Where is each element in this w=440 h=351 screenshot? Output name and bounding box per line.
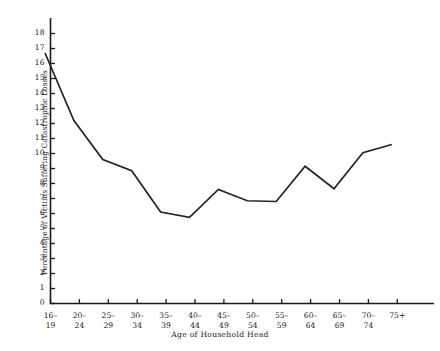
y-tick-label: 2 [23, 268, 45, 277]
y-tick-label: 4 [23, 238, 45, 247]
y-tick-label: 0 [23, 298, 45, 307]
x-axis-title: Age of Household Head [0, 330, 440, 339]
y-tick-label: 13 [23, 103, 45, 112]
y-tick-label: 8 [23, 178, 45, 187]
y-tick-label: 7 [23, 193, 45, 202]
plot-area [0, 0, 440, 351]
y-tick-label: 12 [23, 118, 45, 127]
y-tick-label: 3 [23, 253, 45, 262]
y-tick-label: 18 [23, 28, 45, 37]
y-tick-label: 11 [23, 133, 45, 142]
chart-figure: Percentage of Victims Suffering Catastro… [0, 0, 440, 351]
y-tick-label: 9 [23, 163, 45, 172]
y-tick-label: 6 [23, 208, 45, 217]
y-tick-label: 15 [23, 73, 45, 82]
data-series-line [45, 53, 392, 217]
x-tick-label: 75+ [380, 311, 414, 322]
y-tick-label: 1 [23, 283, 45, 292]
y-tick-label: 14 [23, 88, 45, 97]
y-tick-label: 17 [23, 43, 45, 52]
y-tick-label: 16 [23, 58, 45, 67]
y-tick-label: 5 [23, 223, 45, 232]
y-tick-label: 10 [23, 148, 45, 157]
x-tick-label-line1: 75+ [380, 311, 414, 322]
